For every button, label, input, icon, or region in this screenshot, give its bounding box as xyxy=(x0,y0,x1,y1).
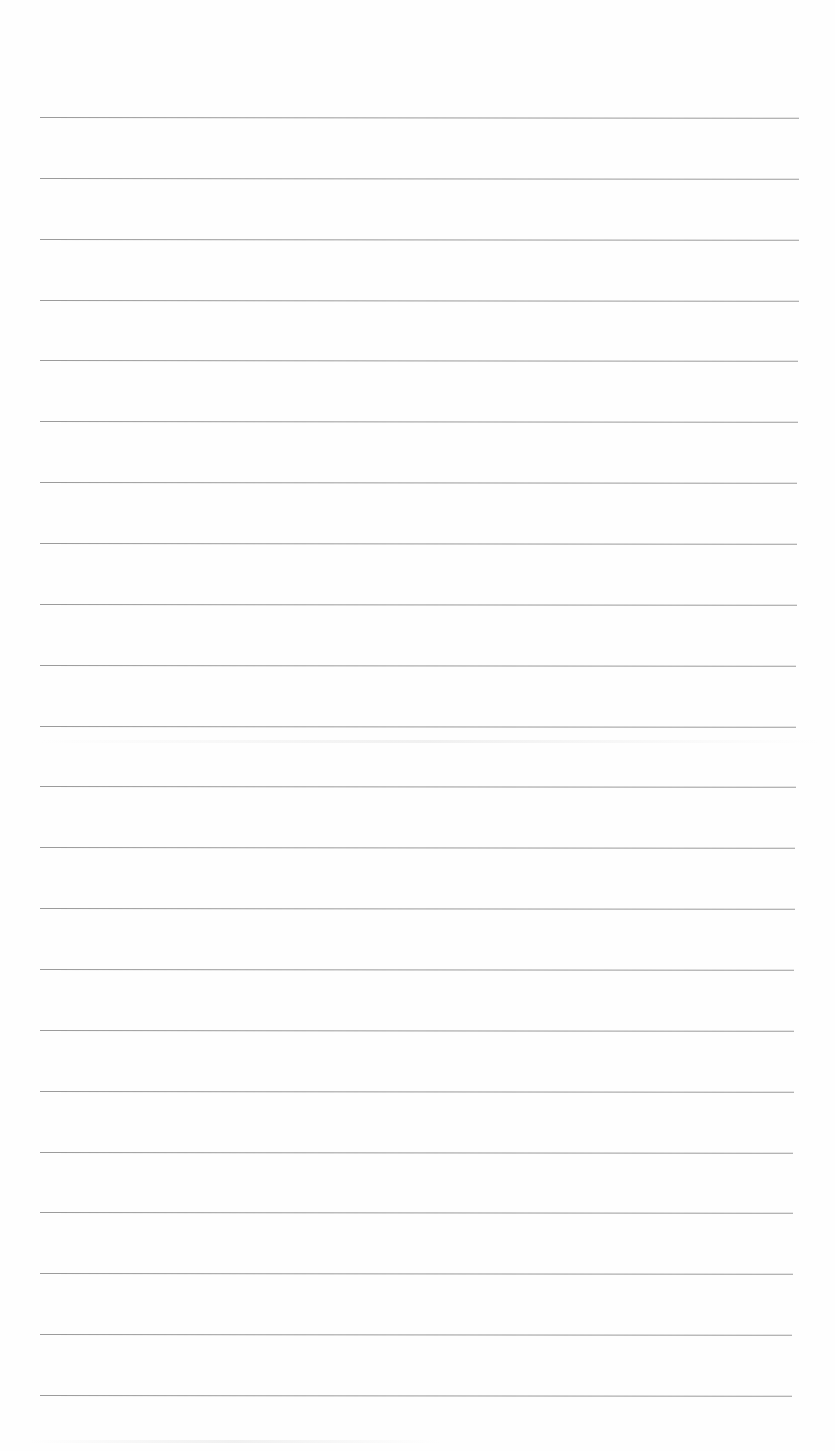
ruled-line xyxy=(40,726,796,728)
ruled-line xyxy=(40,117,799,119)
ruled-line xyxy=(40,178,799,180)
ruled-line xyxy=(40,604,797,606)
ruled-line xyxy=(40,1334,792,1336)
ruled-line xyxy=(40,786,796,788)
ruled-line xyxy=(40,1091,794,1093)
ruled-line xyxy=(40,1273,793,1275)
ruled-line xyxy=(40,1030,794,1032)
ruled-line xyxy=(40,908,795,910)
ruled-line xyxy=(40,543,797,545)
ruled-line xyxy=(40,1395,792,1397)
scan-smudge xyxy=(30,1440,440,1443)
ruled-line xyxy=(40,421,798,423)
ruled-line xyxy=(40,300,799,302)
scan-smudge xyxy=(40,740,820,743)
ruled-line xyxy=(40,665,796,667)
ruled-line xyxy=(40,1152,793,1154)
ruled-line xyxy=(40,847,795,849)
ruled-line xyxy=(40,969,794,971)
ruled-line xyxy=(40,360,798,362)
lined-paper-sheet xyxy=(0,0,835,1451)
ruled-line xyxy=(40,1212,793,1214)
ruled-line xyxy=(40,482,797,484)
ruled-line xyxy=(40,239,799,241)
